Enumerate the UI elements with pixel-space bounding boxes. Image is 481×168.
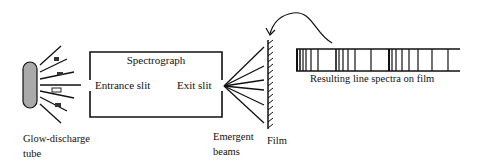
spectroscopy-diagram: Spectrograph Entrance slit Exit slit <box>0 0 481 168</box>
tube-label-line1: Glow-discharge <box>23 133 90 144</box>
curved-arrow <box>266 13 332 43</box>
entrance-slit-label: Entrance slit <box>95 79 150 91</box>
spectrograph-label: Spectrograph <box>127 54 186 66</box>
film-label: Film <box>267 135 287 146</box>
spectra-label: Resulting line spectra on film <box>310 73 434 84</box>
line-spectrum-strip <box>296 49 460 71</box>
ray-markers <box>52 57 63 107</box>
tube-light-rays <box>40 46 81 123</box>
glow-discharge-tube <box>23 62 37 108</box>
film <box>268 40 273 129</box>
beams-label-line1: Emergent <box>213 131 254 142</box>
exit-slit-label: Exit slit <box>177 79 212 91</box>
emergent-beams <box>224 47 264 123</box>
beams-label-line2: beams <box>213 146 240 157</box>
tube-label-line2: tube <box>23 148 41 159</box>
